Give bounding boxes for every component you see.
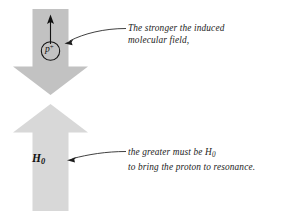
annotation-induced-field: The stronger the induced molecular field… bbox=[128, 22, 224, 46]
annotation-applied-field-line-2: to bring the proton to resonance. bbox=[128, 161, 255, 173]
figure-root: p+ H0 The stronger the induced molecular… bbox=[0, 0, 289, 211]
annotation-induced-field-line-1: The stronger the induced bbox=[128, 22, 224, 34]
leader-line-top bbox=[65, 29, 127, 46]
annotation-applied-field: the greater must be H0 to bring the prot… bbox=[128, 146, 255, 173]
annotation-applied-field-subscript: 0 bbox=[212, 151, 216, 159]
annotation-induced-field-line-2: molecular field, bbox=[128, 34, 224, 46]
proton-charge: + bbox=[50, 43, 54, 51]
annotation-applied-field-line-1: the greater must be H0 bbox=[128, 146, 255, 161]
applied-field-symbol: H bbox=[32, 152, 41, 164]
annotation-applied-field-symbol: H bbox=[205, 147, 212, 157]
annotation-applied-field-prefix: the greater must be bbox=[128, 147, 205, 157]
proton-label: p+ bbox=[45, 43, 54, 54]
applied-field-subscript: 0 bbox=[41, 157, 45, 166]
applied-field-label: H0 bbox=[32, 152, 45, 166]
leader-line-bottom bbox=[67, 152, 126, 163]
